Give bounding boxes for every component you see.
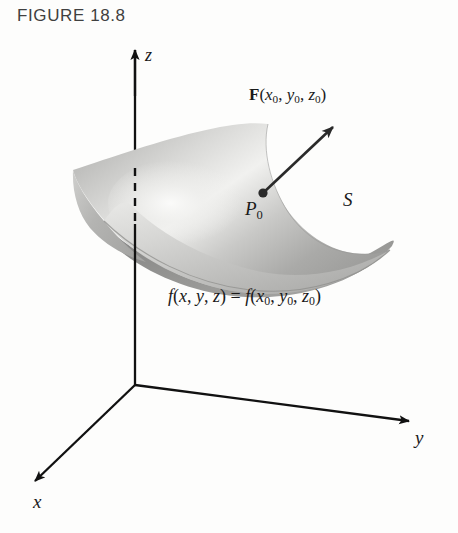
eq-lhs-sep1: , — [187, 286, 196, 306]
axis-x-line — [35, 385, 135, 481]
eq-rhs-close: ) — [315, 286, 321, 306]
point-P0-label: P0 — [245, 199, 263, 221]
eq-lhs-z: z — [213, 286, 220, 306]
eq-lhs-x: x — [179, 286, 187, 306]
eq-rhs-x: x — [256, 286, 264, 306]
vector-F-paren-close: ) — [321, 85, 327, 104]
surface-S-label: S — [343, 190, 353, 209]
axis-y-line — [135, 385, 409, 421]
vector-F-sep-1: , — [278, 85, 287, 104]
level-surface-S — [73, 123, 394, 297]
eq-equals: = — [226, 286, 245, 306]
figure-container: FIGURE 18.8 — [0, 0, 458, 533]
eq-lhs-sep2: , — [204, 286, 213, 306]
point-P0-dot — [258, 188, 267, 197]
axis-y-label: y — [415, 428, 423, 447]
point-P-subscript: 0 — [257, 208, 263, 222]
axis-z-label: z — [145, 46, 152, 64]
vector-F-shaft — [263, 127, 333, 193]
point-P-symbol: P — [245, 198, 257, 219]
vector-field-label: F(x0, y0, z0) — [249, 86, 326, 105]
eq-lhs-y: y — [196, 286, 204, 306]
vector-field-arrow — [258, 127, 333, 198]
eq-rhs-sep1: , — [270, 286, 279, 306]
eq-rhs-y: y — [279, 286, 287, 306]
figure-diagram — [0, 0, 458, 533]
vector-F-var-z: z — [308, 85, 315, 104]
eq-rhs-sep2: , — [293, 286, 302, 306]
level-surface-equation: f(x, y, z) = f(x0, y0, z0) — [168, 287, 321, 308]
axis-x-label: x — [33, 492, 41, 511]
vector-F-var-x: x — [265, 85, 273, 104]
vector-F-symbol: F — [249, 85, 259, 104]
